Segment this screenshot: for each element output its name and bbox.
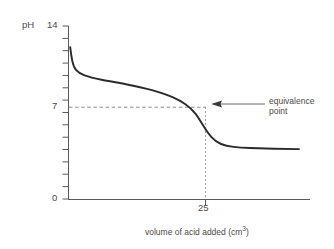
x-tick-label-25: 25 [198,203,209,214]
equivalence-point-label: equivalencepoint [269,97,314,116]
titration-curve-figure: pH 14 7 0 25 volume of acid added (cm3) … [0,0,334,249]
y-tick-label-14: 14 [47,20,58,31]
chart-canvas [0,0,334,249]
x-axis-title-main: volume of acid added (cm [145,227,242,237]
y-tick-label-7: 7 [52,101,57,112]
x-axis-title-tail: ) [246,227,249,237]
equivalence-point-label-line1: equivalence [269,96,314,106]
titration-curve-path [70,47,299,149]
equivalence-point-arrow [211,101,265,108]
y-tick-label-0: 0 [52,193,57,204]
x-axis-title: volume of acid added (cm3) [145,228,249,238]
y-axis-title: pH [22,20,34,31]
equivalence-point-label-line2: point [269,107,314,117]
y-axis-ticks [63,26,69,199]
